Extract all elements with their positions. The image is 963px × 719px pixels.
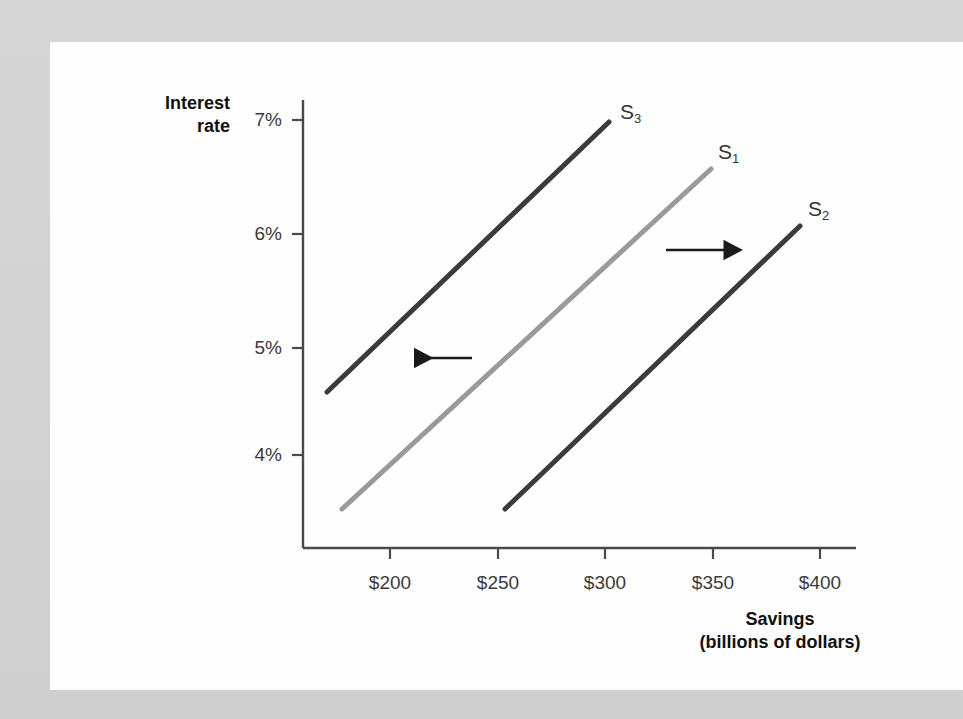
- curve-label-s3-text: S: [620, 100, 634, 123]
- y-tick-label-5: 5%: [228, 337, 282, 359]
- x-tick-label-250: $250: [477, 572, 519, 594]
- curve-label-s1: S1: [718, 140, 739, 164]
- x-tick-label-400: $400: [799, 572, 841, 594]
- x-tick-label-200: $200: [369, 572, 411, 594]
- x-tick-label-350: $350: [692, 572, 734, 594]
- y-axis-title: Interest rate: [120, 92, 230, 137]
- y-tick-label-6: 6%: [228, 223, 282, 245]
- curve-label-s2-text: S: [808, 197, 822, 220]
- curve-label-s1-subscript: 1: [732, 151, 739, 166]
- curve-label-s2-subscript: 2: [822, 208, 829, 223]
- y-axis-title-line2: rate: [120, 115, 230, 138]
- x-axis-title-sub: (billions of dollars): [640, 631, 920, 654]
- curve-label-s3-subscript: 3: [634, 111, 641, 126]
- y-tick-label-7: 7%: [228, 109, 282, 131]
- y-axis-title-line1: Interest: [120, 92, 230, 115]
- curve-label-s2: S2: [808, 197, 829, 221]
- x-axis-title-main: Savings: [640, 608, 920, 631]
- y-tick-label-4: 4%: [228, 444, 282, 466]
- x-axis-title: Savings (billions of dollars): [640, 608, 920, 655]
- x-tick-label-300: $300: [584, 572, 626, 594]
- curve-label-s1-text: S: [718, 140, 732, 163]
- curve-label-s3: S3: [620, 100, 641, 124]
